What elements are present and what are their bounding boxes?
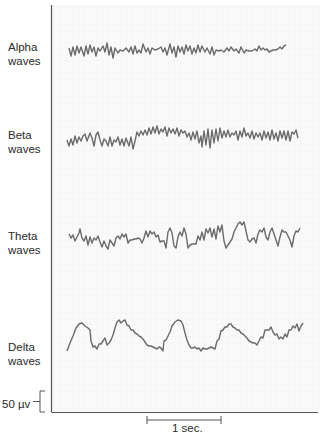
voltage-scale-label: 50 µv — [2, 398, 30, 410]
beta-label-line2: waves — [8, 142, 41, 156]
eeg-figure — [0, 0, 325, 440]
voltage-scale-bar — [33, 391, 45, 412]
alpha-waves-label: Alpha waves — [8, 40, 41, 68]
theta-waves-label: Theta waves — [8, 229, 41, 257]
theta-label-line2: waves — [8, 243, 41, 257]
delta-waves-label: Delta waves — [8, 340, 41, 368]
beta-label-line1: Beta — [8, 128, 41, 142]
delta-label-line1: Delta — [8, 340, 41, 354]
theta-label-line1: Theta — [8, 229, 41, 243]
beta-waves-label: Beta waves — [8, 128, 41, 156]
time-scale-label: 1 sec. — [172, 422, 203, 434]
alpha-label-line1: Alpha — [8, 40, 41, 54]
alpha-label-line2: waves — [8, 54, 41, 68]
delta-label-line2: waves — [8, 354, 41, 368]
